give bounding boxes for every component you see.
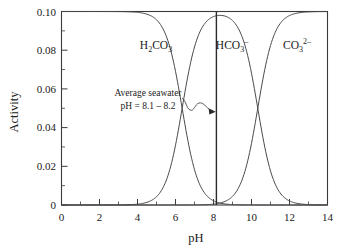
x-tick-label-0: 0 (59, 211, 65, 223)
y-tick-label-010: 0.10 (37, 6, 57, 18)
species-label-hco3: HCO3– (216, 37, 249, 54)
h2co3-base: H (140, 39, 148, 51)
y-tick-label-004: 0.04 (37, 121, 57, 133)
x-tick-label-12: 12 (284, 211, 295, 223)
carbonate-speciation-chart: 0 0.02 0.04 0.06 0.08 0.10 (0, 0, 344, 252)
x-tick-label-8: 8 (211, 211, 217, 223)
y-axis-ticks (62, 12, 68, 206)
annotation-wavy-arrow (182, 98, 213, 111)
y-tick-label-0: 0 (51, 199, 57, 211)
annotation-line-2: pH = 8.1 – 8.2 (121, 101, 176, 111)
co3-sup: 2– (303, 37, 312, 46)
y-axis-tick-labels: 0 0.02 0.04 0.06 0.08 0.10 (37, 6, 57, 211)
x-tick-label-2: 2 (97, 211, 103, 223)
annotation-line-1: Average seawater (114, 88, 182, 98)
y-tick-label-006: 0.06 (37, 83, 57, 95)
hco3-sup: – (243, 37, 249, 46)
x-axis-tick-labels: 0 2 4 6 8 10 12 14 (59, 211, 334, 223)
x-tick-label-10: 10 (246, 211, 258, 223)
chart-figure: 0 0.02 0.04 0.06 0.08 0.10 (0, 0, 344, 252)
y-tick-label-002: 0.02 (37, 160, 56, 172)
average-seawater-annotation: Average seawater pH = 8.1 – 8.2 (114, 88, 215, 114)
co3-base: CO (283, 39, 299, 51)
h2co3-mid: CO (152, 39, 168, 51)
y-tick-label-008: 0.08 (37, 44, 57, 56)
annotation-arrowhead-icon (209, 109, 216, 115)
hco3-base: HCO (216, 39, 240, 51)
hco3-sub: 3 (240, 45, 244, 54)
h2co3-sub2: 3 (168, 45, 172, 54)
species-label-co3: CO32– (283, 37, 312, 54)
co3-sub: 3 (299, 45, 303, 54)
x-tick-label-4: 4 (135, 211, 141, 223)
x-axis-title: pH (188, 231, 203, 245)
x-tick-label-14: 14 (322, 211, 334, 223)
species-label-h2co3: H2CO3 (140, 39, 172, 54)
x-tick-label-6: 6 (173, 211, 179, 223)
y-axis-title: Activity (7, 91, 21, 133)
species-labels: H2CO3 HCO3– CO32– (140, 37, 312, 54)
